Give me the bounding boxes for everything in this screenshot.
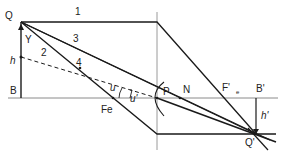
label-fe: Fe	[101, 104, 113, 115]
label-h: h	[10, 55, 16, 66]
label-f-prime: F'	[222, 82, 230, 93]
label-f-prime-sub: e	[236, 89, 240, 95]
ray-to-image	[157, 98, 276, 142]
label-ray-4: 4	[76, 57, 82, 68]
label-ray-3: 3	[73, 33, 79, 44]
label-gamma: Y	[25, 34, 32, 45]
label-p: P	[163, 86, 170, 97]
label-u: u	[110, 82, 116, 93]
label-n: N	[183, 84, 190, 95]
label-b-prime: B'	[256, 83, 265, 94]
label-ray-1: 1	[75, 6, 81, 17]
label-ray-2: 2	[41, 47, 47, 58]
label-q-prime: Q'	[245, 137, 255, 148]
label-u-prime: u'	[130, 93, 139, 104]
h-marker	[20, 56, 23, 59]
label-b: B	[10, 85, 17, 96]
object-arrowhead	[18, 24, 24, 30]
p-point	[156, 97, 159, 100]
ray-4	[21, 22, 256, 134]
label-q: Q	[5, 10, 13, 21]
ray-2	[21, 22, 276, 134]
optics-diagram: Q 1 3 Y 2 h 4 B u u' Fe P N F' e B' h' Q…	[0, 0, 283, 158]
fe-point	[112, 97, 115, 100]
n-point	[179, 97, 182, 100]
angle-u-arc	[119, 88, 122, 98]
label-h-prime: h'	[261, 110, 270, 121]
